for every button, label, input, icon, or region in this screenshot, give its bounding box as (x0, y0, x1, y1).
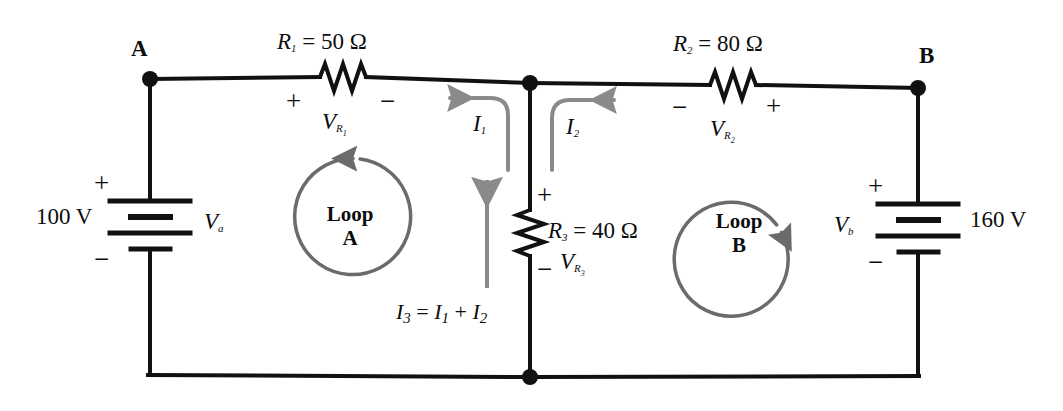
r1-value: = 50 Ω (297, 29, 367, 54)
vr3-sub2: 3 (581, 269, 585, 278)
node-dot-a (142, 71, 158, 87)
resistor-r3-spec: R3 = 40 Ω (548, 219, 638, 243)
r2-minus-sign: − (672, 94, 687, 121)
r3-voltage-drop-label: VR3 (560, 250, 585, 278)
i3-term1-sub: 1 (442, 310, 449, 326)
current-arrow-i2 (552, 100, 614, 170)
resistor-r2-spec: R2 = 80 Ω (673, 32, 763, 56)
right-source-value: 160 V (970, 208, 1026, 231)
current-equation-i3: I3 = I1 + I2 (396, 301, 487, 326)
resistor-r2-zigzag (710, 72, 756, 99)
i1-sub: 1 (481, 124, 486, 136)
vb-sub: b (848, 225, 853, 237)
i2-symbol: I (566, 114, 574, 139)
resistor-r3-zigzag (517, 210, 544, 256)
vr2-sub: R (724, 129, 731, 141)
loop-a-line2: A (309, 227, 391, 251)
i3-term2: I (472, 299, 479, 324)
left-source-minus: − (94, 246, 109, 273)
node-label-a: A (131, 37, 148, 60)
r1-symbol: R (277, 29, 291, 54)
r3-value: = 40 Ω (568, 218, 638, 243)
i3-equals: = (411, 299, 434, 324)
right-source-symbol: Vb (834, 213, 854, 237)
r3-plus-sign: + (537, 182, 552, 209)
va-sub: a (218, 222, 223, 234)
vr1-symbol: V (322, 109, 336, 134)
vr1-sub: R (336, 122, 343, 134)
vb-symbol: V (834, 212, 848, 237)
r3-symbol: R (548, 218, 562, 243)
right-source-minus: − (868, 249, 883, 276)
va-symbol: V (204, 209, 218, 234)
r1-voltage-drop-label: VR1 (322, 110, 347, 138)
wire-bottom-left (148, 375, 530, 377)
r2-voltage-drop-label: VR2 (710, 117, 735, 145)
i3-lhs-sub: 3 (403, 310, 410, 326)
wire-r1-to-center (366, 77, 530, 83)
r2-symbol: R (673, 31, 687, 56)
resistor-r1-spec: R1 = 50 Ω (277, 30, 367, 54)
wire-a-to-r1 (150, 77, 320, 79)
wire-center-to-r2 (530, 83, 710, 85)
i3-term2-sub: 2 (480, 310, 487, 326)
i3-term1: I (434, 299, 441, 324)
current-label-i2: I2 (566, 115, 579, 139)
circuit-diagram: A B R1 = 50 Ω + − VR1 R2 = 80 Ω − + VR2 … (0, 0, 1063, 411)
r2-plus-sign: + (766, 93, 781, 120)
wire-bottom-right (530, 376, 919, 377)
circuit-schematic-svg (0, 0, 1063, 411)
vr3-sub: R (574, 262, 581, 274)
node-dot-b (910, 80, 926, 96)
loop-a-label: Loop A (309, 203, 391, 250)
vr1-sub2: 1 (343, 129, 347, 138)
left-source-symbol: Va (204, 210, 224, 234)
r3-minus-sign: − (537, 256, 552, 283)
i2-sub: 2 (574, 127, 579, 139)
left-source-value: 100 V (36, 205, 92, 228)
current-label-i1: I1 (473, 112, 486, 136)
loop-b-label: Loop B (698, 210, 780, 257)
i1-symbol: I (473, 111, 481, 136)
r2-value: = 80 Ω (693, 31, 763, 56)
resistor-r1-zigzag (320, 64, 366, 91)
i3-plus: + (449, 299, 472, 324)
loop-a-line1: Loop (309, 203, 391, 227)
wire-group (110, 64, 958, 385)
right-source-plus: + (868, 173, 883, 200)
left-source-plus: + (94, 170, 109, 197)
vr2-sub2: 2 (731, 136, 735, 145)
loop-b-line2: B (698, 234, 780, 258)
loop-b-line1: Loop (698, 210, 780, 234)
r1-minus-sign: − (380, 88, 395, 115)
r1-plus-sign: + (286, 88, 301, 115)
vr3-symbol: V (560, 249, 574, 274)
node-dot-bottom-center (522, 369, 538, 385)
wire-r2-to-b (756, 85, 918, 88)
node-label-b: B (919, 44, 934, 67)
vr2-symbol: V (710, 116, 724, 141)
node-dot-top-center (522, 75, 538, 91)
